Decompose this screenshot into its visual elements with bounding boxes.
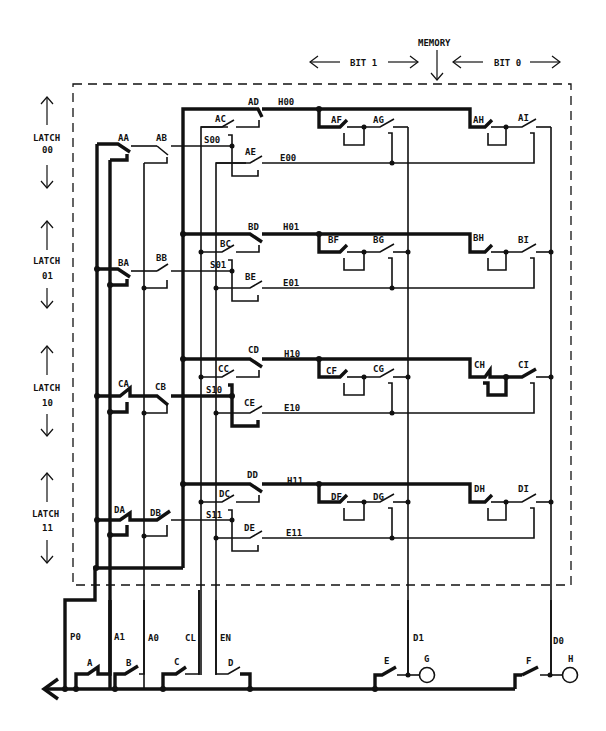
relay-contact-label: AA (118, 133, 129, 143)
relay-contact-label: AI (518, 113, 529, 123)
output-g-label: G (424, 654, 429, 664)
relay-contact-label: DH (474, 484, 485, 494)
enable-line-label: E00 (280, 153, 296, 163)
relay-contact-label: AB (156, 133, 167, 143)
select-line-label: S01 (210, 260, 226, 270)
relay-contact-label: CI (518, 360, 529, 370)
relay-contact-label: DB (150, 508, 161, 518)
latch-row-00: AA AB AC AD H00 S00 AE E00 AF AG AH AI (97, 97, 551, 176)
relay-contact-label: DI (518, 484, 529, 494)
switch-c-label: C (174, 657, 179, 667)
signal-a0-label: A0 (148, 633, 159, 643)
output-h-label: H (568, 654, 573, 664)
relay-contact-label: BG (373, 235, 384, 245)
relay-contact-label: BB (156, 253, 167, 263)
hold-line-label: H01 (283, 222, 299, 232)
signal-d0-label: D0 (553, 636, 564, 646)
switch-f-label: F (526, 656, 531, 666)
bit0-label: BIT 0 (494, 58, 521, 68)
switch-a-label: A (87, 658, 93, 668)
latch-labels: LATCH 00 LATCH 01 LATCH 10 LATCH 11 (32, 97, 60, 563)
relay-contact-label: BI (518, 235, 529, 245)
relay-contact-label: DA (114, 505, 125, 515)
memory-boundary (73, 84, 571, 585)
latch-10-address: 10 (42, 398, 53, 408)
relay-contact-label: BA (118, 258, 129, 268)
latch-00-label: LATCH (33, 133, 60, 143)
relay-contact-label: CA (118, 379, 129, 389)
relay-contact-label: BE (245, 272, 256, 282)
relay-contact-label: DD (247, 470, 258, 480)
select-line-label: S10 (206, 385, 222, 395)
control-rail: P0 A1 A0 CL EN D1 D0 A B C D E F G H (44, 590, 578, 699)
latch-01-label: LATCH (33, 256, 60, 266)
select-line-label: S00 (204, 135, 220, 145)
relay-contact-label: CF (326, 366, 337, 376)
relay-contact-label: BC (220, 239, 231, 249)
select-line-label: S11 (206, 510, 222, 520)
latch-row-01: BA BB BC BD H01 S01 BE E01 BF BG BH BI (94, 222, 554, 301)
relay-contact-label: AF (331, 115, 342, 125)
vertical-buses (65, 109, 551, 690)
relay-contact-label: AE (245, 147, 256, 157)
relay-contact-label: AC (215, 114, 226, 124)
latch-row-10: CA CB CC CD H10 S10 CE E10 CF CG CH CI (94, 345, 554, 426)
switch-d-label: D (228, 658, 234, 668)
signal-d1-label: D1 (413, 633, 424, 643)
relay-memory-diagram: MEMORY BIT 1 BIT 0 LATCH 00 LATCH 01 LAT… (0, 0, 606, 731)
relay-contact-label: BF (328, 235, 339, 245)
latch-00-address: 00 (42, 145, 53, 155)
relay-contact-label: CB (155, 382, 166, 392)
relay-contact-label: DG (373, 492, 384, 502)
enable-line-label: E01 (283, 278, 299, 288)
relay-contact-label: BH (473, 233, 484, 243)
relay-contact-label: CC (218, 364, 229, 374)
switch-b-label: B (126, 658, 132, 668)
latch-11-label: LATCH (32, 509, 59, 519)
enable-line-label: E11 (286, 528, 302, 538)
signal-en-label: EN (220, 633, 231, 643)
output-lamp-g (420, 668, 435, 683)
relay-contact-label: AG (373, 115, 384, 125)
output-lamp-h (563, 668, 578, 683)
signal-cl-label: CL (185, 633, 196, 643)
switch-e-label: E (384, 656, 389, 666)
signal-p0-label: P0 (70, 632, 81, 642)
relay-contact-label: BD (248, 222, 259, 232)
hold-line-label: H11 (287, 476, 303, 486)
relay-contact-label: DF (331, 492, 342, 502)
relay-contact-label: DC (219, 489, 230, 499)
relay-contact-label: AH (473, 115, 484, 125)
relay-contact-label: AD (248, 97, 259, 107)
memory-header: MEMORY BIT 1 BIT 0 (310, 38, 560, 80)
hold-line-label: H00 (278, 97, 294, 107)
relay-contact-label: CE (244, 398, 255, 408)
relay-contact-label: CG (373, 364, 384, 374)
relay-contact-label: CD (248, 345, 259, 355)
memory-label: MEMORY (418, 38, 451, 48)
enable-line-label: E10 (284, 403, 300, 413)
hold-line-label: H10 (284, 349, 300, 359)
bit1-label: BIT 1 (350, 58, 377, 68)
relay-contact-label: DE (244, 523, 255, 533)
latch-row-11: DA DB DC DD H11 S11 DE E11 DF DG DH DI (94, 470, 554, 551)
relay-contact-label: CH (474, 360, 485, 370)
signal-a1-label: A1 (114, 632, 125, 642)
latch-10-label: LATCH (33, 383, 60, 393)
latch-11-address: 11 (42, 523, 53, 533)
latch-01-address: 01 (42, 271, 53, 281)
